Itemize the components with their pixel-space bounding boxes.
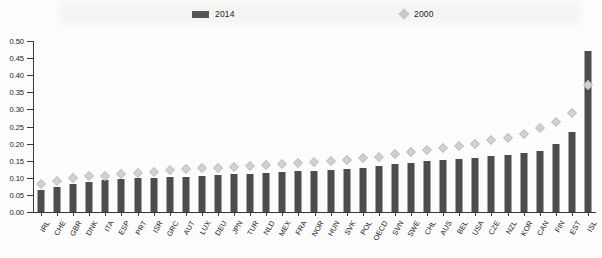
bar[interactable] <box>536 151 543 212</box>
bar-slot[interactable] <box>419 41 435 212</box>
bar[interactable] <box>408 163 415 212</box>
bar[interactable] <box>295 171 302 212</box>
bar-slot[interactable] <box>274 41 290 212</box>
bar-slot[interactable] <box>146 41 162 212</box>
bar-slot[interactable] <box>387 41 403 212</box>
bar[interactable] <box>375 166 382 212</box>
marker-2000[interactable] <box>149 167 159 177</box>
marker-2000[interactable] <box>454 141 464 151</box>
marker-2000[interactable] <box>133 168 143 178</box>
bar[interactable] <box>504 155 511 212</box>
bar[interactable] <box>38 190 45 212</box>
bar[interactable] <box>424 161 431 212</box>
bar[interactable] <box>118 179 125 212</box>
legend-item-2000[interactable]: 2000 <box>400 7 434 21</box>
bar[interactable] <box>327 170 334 212</box>
marker-2000[interactable] <box>551 117 561 127</box>
marker-2000[interactable] <box>36 179 46 189</box>
marker-2000[interactable] <box>374 152 384 162</box>
marker-2000[interactable] <box>245 161 255 171</box>
bar-slot[interactable] <box>339 41 355 212</box>
bar-slot[interactable] <box>130 41 146 212</box>
marker-2000[interactable] <box>84 171 94 181</box>
marker-2000[interactable] <box>390 149 400 159</box>
bar[interactable] <box>520 153 527 212</box>
bar[interactable] <box>359 168 366 212</box>
bar[interactable] <box>568 132 575 212</box>
bar-slot[interactable] <box>194 41 210 212</box>
bar-slot[interactable] <box>226 41 242 212</box>
bar-slot[interactable] <box>467 41 483 212</box>
bar[interactable] <box>166 177 173 212</box>
bar-slot[interactable] <box>451 41 467 212</box>
marker-2000[interactable] <box>358 153 368 163</box>
bar[interactable] <box>311 171 318 212</box>
bar-slot[interactable] <box>49 41 65 212</box>
bar-slot[interactable] <box>499 41 515 212</box>
bar[interactable] <box>102 180 109 212</box>
bar-slot[interactable] <box>483 41 499 212</box>
bar-slot[interactable] <box>210 41 226 212</box>
bar-slot[interactable] <box>306 41 322 212</box>
marker-2000[interactable] <box>68 173 78 183</box>
bar-slot[interactable] <box>516 41 532 212</box>
bar-slot[interactable] <box>403 41 419 212</box>
marker-2000[interactable] <box>503 133 513 143</box>
marker-2000[interactable] <box>422 145 432 155</box>
bar-slot[interactable] <box>33 41 49 212</box>
legend-item-2014[interactable]: 2014 <box>192 7 235 21</box>
marker-2000[interactable] <box>181 164 191 174</box>
marker-2000[interactable] <box>229 162 239 172</box>
marker-2000[interactable] <box>519 129 529 139</box>
bar-slot[interactable] <box>290 41 306 212</box>
marker-2000[interactable] <box>310 157 320 167</box>
bar-slot[interactable] <box>548 41 564 212</box>
bar[interactable] <box>231 174 238 212</box>
bar[interactable] <box>214 175 221 212</box>
bar-slot[interactable] <box>258 41 274 212</box>
bar[interactable] <box>150 178 157 212</box>
bar-slot[interactable] <box>580 41 596 212</box>
bar-slot[interactable] <box>435 41 451 212</box>
bar-slot[interactable] <box>81 41 97 212</box>
bar-slot[interactable] <box>65 41 81 212</box>
marker-2000[interactable] <box>438 143 448 153</box>
marker-2000[interactable] <box>326 156 336 166</box>
bar[interactable] <box>343 169 350 212</box>
marker-2000[interactable] <box>261 160 271 170</box>
marker-2000[interactable] <box>406 147 416 157</box>
bar[interactable] <box>70 184 77 212</box>
bar[interactable] <box>247 174 254 212</box>
bar-slot[interactable] <box>371 41 387 212</box>
marker-2000[interactable] <box>197 163 207 173</box>
marker-2000[interactable] <box>567 108 577 118</box>
bar-slot[interactable] <box>242 41 258 212</box>
marker-2000[interactable] <box>486 135 496 145</box>
marker-2000[interactable] <box>470 139 480 149</box>
marker-2000[interactable] <box>293 158 303 168</box>
bar[interactable] <box>54 187 61 212</box>
marker-2000[interactable] <box>213 163 223 173</box>
bar[interactable] <box>279 172 286 212</box>
marker-2000[interactable] <box>342 155 352 165</box>
marker-2000[interactable] <box>117 169 127 179</box>
bar[interactable] <box>86 182 93 212</box>
bar-slot[interactable] <box>564 41 580 212</box>
bar[interactable] <box>472 158 479 212</box>
bar[interactable] <box>134 178 141 212</box>
bar-slot[interactable] <box>97 41 113 212</box>
bar-slot[interactable] <box>113 41 129 212</box>
marker-2000[interactable] <box>165 165 175 175</box>
bar-slot[interactable] <box>162 41 178 212</box>
bar-slot[interactable] <box>355 41 371 212</box>
bar[interactable] <box>584 51 591 212</box>
marker-2000[interactable] <box>52 176 62 186</box>
bar[interactable] <box>263 173 270 212</box>
bar[interactable] <box>456 159 463 212</box>
bar-slot[interactable] <box>323 41 339 212</box>
bar[interactable] <box>552 144 559 212</box>
bar-slot[interactable] <box>532 41 548 212</box>
bar[interactable] <box>440 160 447 212</box>
bar[interactable] <box>198 176 205 212</box>
bar[interactable] <box>182 177 189 212</box>
